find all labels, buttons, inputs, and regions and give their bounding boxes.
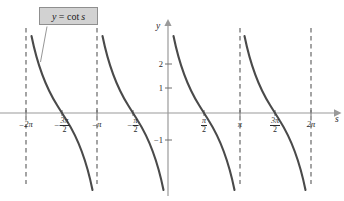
- equation-operator: =: [59, 11, 65, 22]
- x-tick-label-neg-2pi: −2π: [19, 120, 32, 129]
- x-tick-label-3pi-2: 3π2: [270, 117, 280, 134]
- curve-equation-label: y = cot s: [39, 7, 98, 25]
- plot-canvas: [0, 0, 344, 201]
- x-tick-label-pi-2: π2: [201, 117, 207, 134]
- y-tick-label-y-1: 1: [159, 84, 163, 93]
- y-axis-name: y: [156, 22, 160, 32]
- y-tick-label-y-2: 2: [159, 60, 163, 69]
- x-tick-label-neg-3pi-2: −3π2: [55, 117, 70, 134]
- x-tick-label-neg-pi: −π: [92, 120, 101, 129]
- x-tick-label-2pi: 2π: [307, 120, 316, 129]
- cotangent-graph-figure: y = cot s s y −2π−3π2−π−π2π2π3π22π21−1: [0, 0, 344, 201]
- y-tick-label-y-neg-1: −1: [154, 136, 163, 145]
- x-axis-name: s: [335, 115, 339, 125]
- equation-lhs: y: [52, 11, 56, 22]
- equation-function: cot: [67, 11, 79, 22]
- x-tick-label-pi: π: [238, 120, 242, 129]
- x-tick-label-neg-pi-2: −π2: [128, 117, 139, 134]
- x-axis: [0, 109, 342, 117]
- label-leader-line: [41, 27, 48, 63]
- y-axis: [164, 19, 171, 196]
- equation-argument: s: [81, 11, 85, 22]
